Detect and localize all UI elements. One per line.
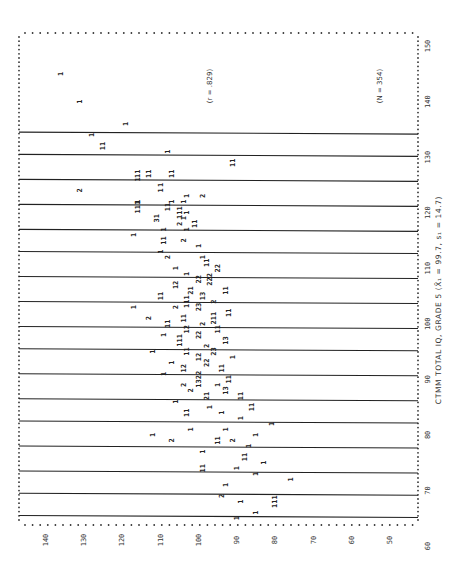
frame-dot	[417, 439, 419, 441]
frame-dot	[18, 389, 20, 391]
frame-dot	[70, 524, 72, 526]
data-point: 1	[149, 433, 157, 437]
frame-dot	[18, 166, 20, 168]
frame-dot	[18, 334, 20, 336]
frame-dot	[18, 36, 20, 38]
data-point: 2	[180, 238, 188, 242]
data-point: 1	[57, 72, 65, 76]
data-point: 12	[180, 364, 188, 372]
frame-dot	[32, 32, 34, 34]
frame-dot	[18, 343, 20, 345]
frame-dot	[417, 61, 419, 63]
frame-dot	[417, 490, 419, 492]
frame-dot	[18, 381, 20, 383]
data-point: 21	[203, 392, 211, 400]
frame-dot	[417, 519, 419, 521]
data-point: 2	[145, 316, 153, 320]
y-tick-label: 70	[310, 536, 318, 544]
data-point: 11	[134, 170, 142, 178]
frame-dot	[260, 524, 262, 526]
y-tick-label: 80	[271, 536, 279, 544]
frame-dot	[417, 82, 419, 84]
frame-dot	[169, 524, 171, 526]
frame-dot	[417, 351, 419, 353]
frame-dot	[417, 334, 419, 336]
x-tick-label: 140	[424, 95, 432, 108]
frame-dot	[417, 452, 419, 454]
frame-dot	[18, 360, 20, 362]
data-point: 2	[164, 255, 172, 259]
x-tick-label: 60	[424, 542, 432, 550]
grid-line	[19, 302, 418, 304]
data-point: 11	[157, 292, 165, 300]
data-point: 13	[222, 386, 230, 394]
frame-dot	[328, 524, 330, 526]
frame-dot	[389, 32, 391, 34]
data-point: 1	[245, 444, 253, 448]
frame-dot	[417, 368, 419, 370]
frame-dot	[417, 376, 419, 378]
frame-dot	[417, 192, 419, 194]
frame-dot	[18, 87, 20, 89]
data-point: 1322	[195, 371, 203, 388]
data-point: 211	[210, 312, 218, 325]
frame-dot	[18, 519, 20, 521]
frame-dot	[417, 486, 419, 488]
frame-dot	[417, 49, 419, 51]
frame-dot	[290, 32, 292, 34]
frame-dot	[417, 393, 419, 395]
frame-dot	[336, 524, 338, 526]
frame-dot	[108, 524, 110, 526]
grid-line	[19, 374, 418, 376]
frame-dot	[417, 255, 419, 257]
frame-dot	[404, 32, 406, 34]
frame-dot	[267, 524, 269, 526]
frame-dot	[131, 524, 133, 526]
frame-dot	[397, 32, 399, 34]
frame-dot	[417, 145, 419, 147]
frame-dot	[191, 524, 193, 526]
data-point: 1	[76, 99, 84, 103]
frame-dot	[18, 284, 20, 286]
frame-dot	[18, 112, 20, 114]
data-point: 1	[122, 122, 130, 126]
frame-dot	[18, 53, 20, 55]
frame-dot	[18, 376, 20, 378]
frame-dot	[417, 381, 419, 383]
frame-dot	[77, 32, 79, 34]
frame-dot	[417, 162, 419, 164]
data-point: 11	[99, 142, 107, 150]
y-tick-label: 110	[157, 534, 165, 547]
data-point: 111	[271, 495, 279, 508]
frame-dot	[18, 507, 20, 509]
frame-dot	[191, 32, 193, 34]
frame-dot	[184, 32, 186, 34]
frame-dot	[18, 368, 20, 370]
data-point: 1	[164, 149, 172, 153]
y-tick-label: 50	[386, 536, 394, 544]
data-point: 2	[76, 188, 84, 192]
frame-dot	[417, 330, 419, 332]
data-point: 22	[203, 358, 211, 366]
data-point: 111	[183, 295, 191, 308]
frame-dot	[417, 141, 419, 143]
frame-dot	[245, 32, 247, 34]
frame-dot	[417, 427, 419, 429]
frame-dot	[18, 494, 20, 496]
frame-dot	[417, 284, 419, 286]
data-point: 11	[237, 392, 245, 400]
data-point: 1	[187, 427, 195, 431]
frame-dot	[417, 95, 419, 97]
frame-dot	[18, 187, 20, 189]
grid-line	[19, 132, 418, 134]
frame-dot	[417, 280, 419, 282]
frame-dot	[417, 187, 419, 189]
frame-dot	[417, 208, 419, 210]
frame-dot	[417, 183, 419, 185]
frame-dot	[131, 32, 133, 34]
frame-dot	[24, 524, 26, 526]
data-point: 11	[248, 403, 256, 411]
frame-dot	[313, 32, 315, 34]
frame-dot	[275, 524, 277, 526]
frame-dot	[245, 524, 247, 526]
